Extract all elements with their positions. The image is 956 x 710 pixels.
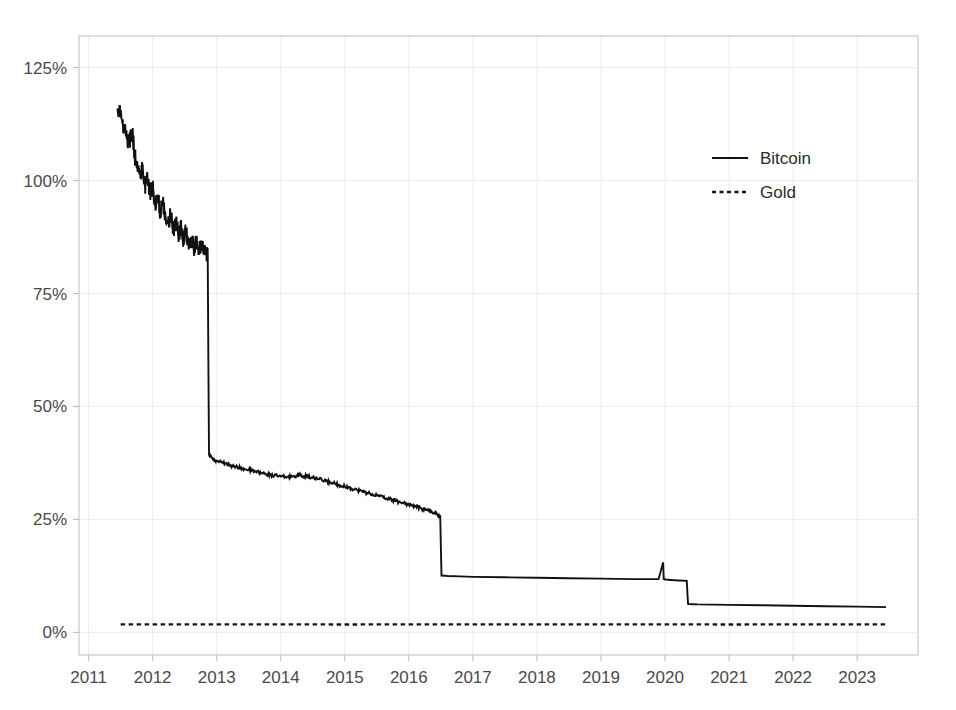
- legend-label-gold: Gold: [760, 183, 796, 202]
- y-tick-label: 100%: [24, 172, 67, 191]
- y-tick-label: 75%: [33, 285, 67, 304]
- x-tick-label: 2018: [518, 668, 556, 687]
- x-tick-label: 2015: [326, 668, 364, 687]
- x-tick-label: 2017: [454, 668, 492, 687]
- x-tick-label: 2013: [198, 668, 236, 687]
- legend-label-bitcoin: Bitcoin: [760, 149, 811, 168]
- x-tick-label: 2014: [262, 668, 300, 687]
- x-tick-label: 2023: [838, 668, 876, 687]
- y-tick-label: 50%: [33, 397, 67, 416]
- x-tick-label: 2022: [774, 668, 812, 687]
- y-tick-label: 0%: [42, 623, 67, 642]
- chart-figure: 0%25%50%75%100%125% 20112012201320142015…: [0, 0, 956, 710]
- x-tick-label: 2021: [710, 668, 748, 687]
- x-tick-label: 2020: [646, 668, 684, 687]
- x-tick-label: 2016: [390, 668, 428, 687]
- x-tick-label: 2019: [582, 668, 620, 687]
- chart-background: [0, 0, 956, 710]
- y-tick-label: 25%: [33, 510, 67, 529]
- y-tick-label: 125%: [24, 59, 67, 78]
- x-tick-label: 2011: [70, 668, 107, 687]
- x-tick-label: 2012: [134, 668, 172, 687]
- inflation-rate-chart: 0%25%50%75%100%125% 20112012201320142015…: [0, 0, 956, 710]
